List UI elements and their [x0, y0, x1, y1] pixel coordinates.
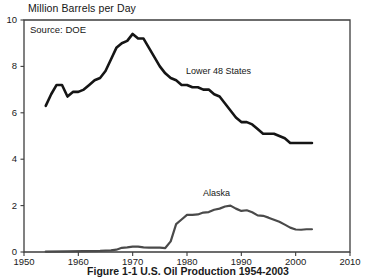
- series-line-lower-48-states: [46, 34, 312, 143]
- source-note: Source: DOE: [30, 24, 86, 35]
- y-tick-label: 8: [1, 60, 17, 71]
- series-label-lower-48-states: Lower 48 States: [186, 66, 251, 76]
- series-line-alaska: [46, 206, 312, 252]
- y-tick-label: 10: [1, 14, 17, 25]
- figure-caption: Figure 1-1 U.S. Oil Production 1954-2003: [0, 265, 376, 277]
- y-axis-title: Million Barrels per Day: [28, 2, 136, 14]
- y-tick-label: 6: [1, 107, 17, 118]
- series-label-alaska: Alaska: [203, 188, 230, 198]
- chart-plot-area: [0, 0, 376, 279]
- y-tick-label: 4: [1, 153, 17, 164]
- plot-frame: [24, 20, 350, 252]
- chart-figure: Million Barrels per Day Source: DOE Lowe…: [0, 0, 376, 279]
- y-tick-label: 2: [1, 200, 17, 211]
